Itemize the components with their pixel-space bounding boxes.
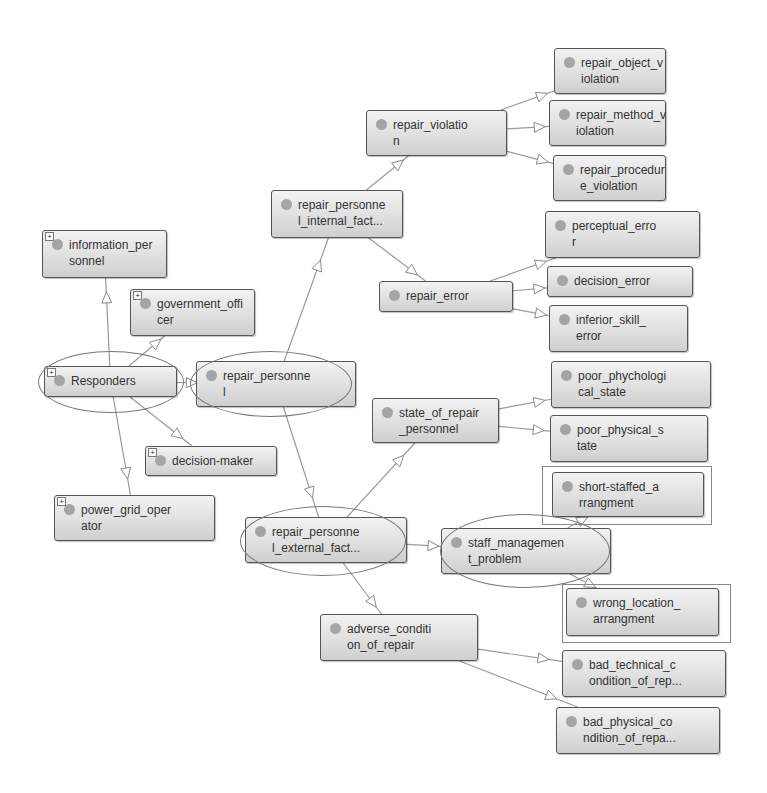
class-node-responders[interactable]: +Responders (44, 366, 177, 397)
class-circle-icon (140, 298, 151, 309)
class-node-state-of-repair-personnel[interactable]: state_of_repair _personnel (372, 398, 499, 443)
node-label: decision_error (574, 273, 686, 289)
node-label: repair_object_v iolation (581, 55, 659, 87)
node-label: short-staffed_a rrangment (579, 479, 697, 511)
class-circle-icon (281, 199, 292, 210)
node-label: state_of_repair _personnel (399, 405, 492, 437)
arrowhead-icon (366, 595, 377, 607)
subclass-edge (507, 126, 549, 128)
subclass-edge (507, 151, 553, 163)
node-label: adverse_conditi on_of_repair (347, 621, 471, 653)
class-node-bad-physical-condition-of-repair[interactable]: bad_physical_co ndition_of_repa... (556, 707, 720, 754)
class-circle-icon (389, 290, 400, 301)
class-node-repair-personnel-external-factor[interactable]: repair_personne l_external_fact... (245, 517, 407, 563)
subclass-edge (407, 544, 441, 546)
class-circle-icon (564, 57, 575, 68)
subclass-edge (513, 309, 549, 316)
class-node-government-officer[interactable]: +government_offi cer (130, 289, 255, 336)
node-label: information_per sonnel (69, 237, 160, 269)
class-node-repair-object-violation[interactable]: repair_object_v iolation (554, 48, 666, 94)
node-label: repair_method_v iolation (576, 107, 659, 139)
node-label: government_offi cer (157, 296, 248, 328)
class-circle-icon (557, 275, 568, 286)
class-node-decision-maker[interactable]: +decision-maker (145, 446, 277, 476)
class-node-power-grid-operator[interactable]: +power_grid_oper ator (54, 495, 215, 541)
node-label: bad_physical_co ndition_of_repa... (583, 714, 713, 746)
class-node-information-personnel[interactable]: +information_per sonnel (42, 230, 167, 278)
class-node-decision-error[interactable]: decision_error (547, 266, 693, 297)
arrowhead-icon (534, 122, 545, 132)
node-label: repair_procedur e_violation (580, 162, 659, 194)
arrowhead-icon (393, 455, 404, 466)
arrowhead-icon (121, 467, 131, 479)
arrowhead-icon (534, 260, 546, 269)
arrowhead-icon (533, 397, 545, 407)
class-circle-icon (54, 375, 65, 386)
class-circle-icon (255, 526, 266, 537)
class-circle-icon (563, 164, 574, 175)
subclass-edge (283, 407, 318, 517)
subclass-edge (478, 649, 562, 661)
class-circle-icon (330, 623, 341, 634)
node-label: poor_physical_s tate (577, 422, 701, 454)
class-node-repair-procedure-violation[interactable]: repair_procedur e_violation (553, 155, 666, 201)
subclass-edge (501, 91, 554, 110)
arrowhead-icon (171, 428, 183, 439)
arrowhead-icon (535, 92, 547, 101)
subclass-edge (284, 238, 328, 361)
class-circle-icon (561, 370, 572, 381)
class-node-inferior-skill-error[interactable]: inferior_skill_ error (549, 305, 688, 352)
ontology-graph-canvas[interactable]: repair_object_v iolationrepair_method_v … (0, 0, 767, 793)
arrowhead-icon (537, 653, 549, 663)
class-node-poor-physical-state[interactable]: poor_physical_s tate (550, 415, 708, 462)
arrowhead-icon (533, 425, 544, 435)
class-node-repair-error[interactable]: repair_error (379, 281, 513, 312)
subclass-edge (130, 397, 192, 446)
node-label: staff_managemen t_problem (468, 535, 604, 567)
arrowhead-icon (392, 160, 404, 171)
node-label: repair_violatio n (393, 117, 500, 149)
arrowhead-icon (406, 264, 418, 275)
node-label: bad_technical_c ondition_of_rep... (589, 657, 719, 689)
subclass-edge (570, 574, 597, 588)
node-label: perceptual_erro r (572, 218, 693, 250)
class-circle-icon (376, 119, 387, 130)
node-label: repair_error (406, 288, 506, 304)
subclass-edge (369, 238, 426, 281)
arrowhead-icon (534, 284, 545, 294)
class-node-adverse-condition-of-repair[interactable]: adverse_conditi on_of_repair (320, 614, 478, 661)
class-node-repair-personnel[interactable]: repair_personne l (196, 361, 356, 407)
class-node-repair-violation[interactable]: repair_violatio n (366, 110, 507, 156)
arrowhead-icon (102, 292, 112, 303)
subclass-edge (113, 397, 130, 495)
class-circle-icon (562, 481, 573, 492)
class-node-repair-method-violation[interactable]: repair_method_v iolation (549, 100, 666, 146)
class-circle-icon (155, 455, 166, 466)
class-circle-icon (576, 597, 587, 608)
class-node-poor-phychological-state[interactable]: poor_phychologi cal_state (551, 361, 711, 408)
node-label: power_grid_oper ator (81, 502, 208, 534)
subclass-edge (106, 278, 110, 366)
subclass-edge (513, 288, 547, 291)
node-label: repair_personne l_external_fact... (272, 524, 400, 556)
arrowhead-icon (304, 486, 314, 498)
node-label: repair_personne l (223, 368, 349, 400)
arrowhead-icon (545, 690, 557, 699)
class-circle-icon (560, 424, 571, 435)
arrowhead-icon (535, 308, 547, 318)
class-node-staff-management-problem[interactable]: staff_managemen t_problem (441, 528, 611, 574)
class-node-wrong-location-arrangment[interactable]: wrong_location_ arrangment (566, 588, 719, 636)
node-label: Responders (71, 373, 170, 389)
node-label: inferior_skill_ error (576, 312, 681, 344)
node-label: decision-maker (172, 453, 270, 469)
subclass-edge (459, 661, 577, 707)
class-node-repair-personnel-internal-factor[interactable]: repair_personne l_internal_fact... (271, 190, 403, 238)
arrowhead-icon (428, 541, 439, 551)
class-circle-icon (566, 716, 577, 727)
node-label: wrong_location_ arrangment (593, 595, 712, 627)
class-circle-icon (52, 239, 63, 250)
class-node-short-staffed-arrangment[interactable]: short-staffed_a rrangment (552, 472, 704, 517)
class-node-perceptual-error[interactable]: perceptual_erro r (545, 211, 700, 258)
arrowhead-icon (312, 260, 321, 272)
class-node-bad-technical-condition-of-repair[interactable]: bad_technical_c ondition_of_rep... (562, 650, 726, 697)
